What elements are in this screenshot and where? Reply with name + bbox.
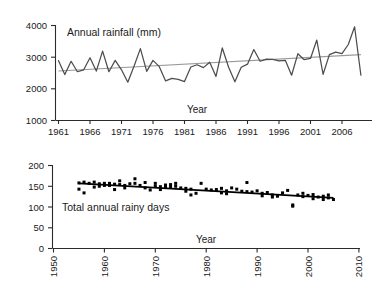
chart-panel-annual-rainfall: 1000 2000 3000 4000 1961 1966 1971 197	[0, 0, 381, 150]
top-x-tick-label-5: 1986	[205, 126, 226, 137]
scatter-point	[322, 198, 325, 201]
bottom-y-tick-label-4: 200	[28, 160, 44, 171]
bottom-y-tick-label-1: 50	[33, 222, 44, 233]
top-x-tick-label-7: 1996	[268, 126, 289, 137]
scatter-point	[245, 181, 248, 184]
scatter-point	[93, 186, 96, 189]
bottom-x-tick-label-5: 2000	[303, 256, 314, 277]
scatter-point	[271, 196, 274, 199]
bottom-y-tick-label-3: 150	[28, 181, 44, 192]
bottom-y-ticks	[48, 166, 53, 249]
top-x-tick-label-0: 1961	[48, 126, 69, 137]
top-x-tick-label-2: 1971	[111, 126, 132, 137]
bottom-x-tick-label-6: 2010	[353, 256, 364, 277]
scatter-point	[195, 192, 198, 195]
scatter-point	[128, 182, 131, 185]
scatter-point	[189, 193, 192, 196]
figure-container: 1000 2000 3000 4000 1961 1966 1971 197	[0, 0, 381, 307]
top-x-tick-label-9: 2006	[331, 126, 352, 137]
chart-panel-rainy-days: 0 50 100 150 200 1950 1960 1970 1980 199…	[0, 150, 381, 307]
top-x-tick-label-3: 1976	[142, 126, 163, 137]
bottom-series-label: Total annual rainy days	[62, 201, 169, 213]
bottom-y-tick-label-2: 100	[28, 202, 44, 213]
scatter-point	[144, 181, 147, 184]
scatter-point	[174, 185, 177, 188]
top-y-tick-label-1: 2000	[26, 83, 47, 94]
bottom-x-ticks	[54, 249, 359, 253]
bottom-x-tick-label-2: 1970	[150, 256, 161, 277]
annual-rainfall-chart-svg: 1000 2000 3000 4000 1961 1966 1971 197	[0, 0, 381, 150]
top-x-tick-label-1: 1966	[79, 126, 100, 137]
bottom-y-tick-label-0: 0	[39, 243, 44, 254]
top-xaxis-title: Year	[187, 104, 208, 115]
bottom-x-tick-label-3: 1980	[201, 256, 212, 277]
top-y-tick-label-0: 1000	[26, 115, 47, 126]
rainy-days-chart-svg: 0 50 100 150 200 1950 1960 1970 1980 199…	[0, 150, 381, 307]
scatter-point	[77, 188, 80, 191]
bottom-trend-line	[79, 183, 334, 198]
scatter-point	[256, 189, 259, 192]
scatter-point	[174, 182, 177, 185]
scatter-point	[312, 193, 315, 196]
scatter-point	[220, 187, 223, 190]
bottom-x-tick-label-4: 1990	[252, 256, 263, 277]
top-x-tick-label-8: 2001	[300, 126, 321, 137]
top-x-tick-label-6: 1991	[237, 126, 258, 137]
top-series-label: Annual rainfall (mm)	[67, 26, 161, 38]
scatter-point	[113, 188, 116, 191]
top-y-tick-label-3: 4000	[26, 20, 47, 31]
scatter-point	[133, 177, 136, 180]
scatter-point	[291, 203, 294, 206]
scatter-point	[118, 179, 121, 182]
scatter-point	[83, 191, 86, 194]
top-x-tick-label-4: 1981	[174, 126, 195, 137]
bottom-x-tick-label-1: 1960	[99, 256, 110, 277]
bottom-x-tick-label-0: 1950	[48, 256, 59, 277]
scatter-point	[133, 182, 136, 185]
scatter-point	[154, 182, 157, 185]
scatter-point	[230, 186, 233, 189]
scatter-point	[327, 193, 330, 196]
top-y-tick-label-2: 3000	[26, 52, 47, 63]
bottom-xaxis-title: Year	[196, 234, 217, 245]
scatter-point	[235, 188, 238, 191]
scatter-point	[93, 181, 96, 184]
scatter-point	[301, 192, 304, 195]
scatter-point	[200, 182, 203, 185]
scatter-point	[286, 189, 289, 192]
scatter-point	[281, 191, 284, 194]
scatter-point	[149, 188, 152, 191]
top-y-ticks	[51, 26, 56, 121]
